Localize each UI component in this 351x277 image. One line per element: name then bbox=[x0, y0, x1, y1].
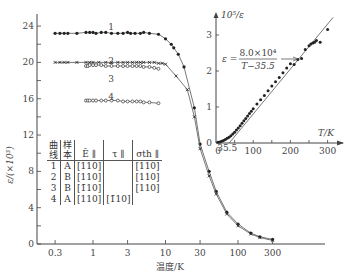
data-point bbox=[100, 64, 103, 67]
fit-line bbox=[229, 17, 333, 143]
data-point bbox=[148, 65, 151, 68]
data-point bbox=[157, 33, 160, 36]
y-tick-label: 12 bbox=[23, 130, 34, 140]
y-tick-label: 0 bbox=[28, 239, 34, 249]
cell: 1 bbox=[47, 161, 61, 173]
curve-label-1: 1 bbox=[108, 22, 114, 32]
inset-data-point bbox=[278, 76, 281, 79]
data-point bbox=[75, 32, 78, 35]
inset-data-point bbox=[300, 57, 303, 60]
data-point bbox=[139, 32, 142, 35]
y-tick-label: 16 bbox=[23, 94, 35, 104]
fit-formula-lhs: ε = bbox=[222, 54, 237, 64]
inset-x-tick-label: 35.5 bbox=[217, 143, 237, 153]
inset-data-point bbox=[267, 89, 270, 92]
inset-data-point bbox=[270, 85, 273, 88]
data-point bbox=[58, 32, 61, 35]
cell: A bbox=[61, 194, 75, 205]
cell bbox=[104, 183, 133, 194]
inset-data-point bbox=[250, 110, 253, 113]
data-point bbox=[133, 32, 136, 35]
inset-data-point bbox=[285, 67, 288, 70]
table-header-sample: 样本 bbox=[61, 140, 75, 161]
inset-x-tick-label: 300 bbox=[319, 146, 336, 156]
y-tick-label: 8 bbox=[28, 166, 34, 176]
table-header-tau: τ ∥ bbox=[104, 140, 133, 161]
table-row: 2 B [110] [110] bbox=[47, 172, 162, 183]
data-point bbox=[91, 31, 94, 34]
inset-data-point bbox=[244, 117, 247, 120]
data-point bbox=[121, 32, 124, 35]
data-point bbox=[182, 65, 185, 68]
cell: B bbox=[61, 172, 75, 183]
data-point bbox=[177, 53, 180, 56]
data-point bbox=[88, 99, 91, 102]
fit-formula-numerator: 8.0×10⁴ bbox=[240, 48, 277, 58]
inset-y-tick-label: 1 bbox=[206, 102, 212, 112]
cell bbox=[133, 194, 162, 205]
inset-data-point bbox=[293, 63, 296, 66]
x-axis-label: 温度/K bbox=[156, 261, 184, 272]
data-point bbox=[135, 100, 138, 103]
data-point bbox=[148, 101, 151, 104]
inset-x-arrow-icon bbox=[337, 141, 344, 146]
inset-data-point bbox=[289, 62, 292, 65]
inset-y-tick-label: 3 bbox=[206, 30, 212, 40]
cell: [110] bbox=[133, 161, 162, 173]
data-point bbox=[95, 99, 98, 102]
data-point bbox=[131, 65, 134, 68]
inset-y-tick-label: 2 bbox=[206, 66, 212, 76]
data-point bbox=[66, 32, 69, 35]
x-tick-label: 0.3 bbox=[48, 248, 63, 258]
data-point bbox=[92, 99, 95, 102]
x-tick-label: 100 bbox=[229, 248, 246, 258]
inset-data-point bbox=[319, 41, 322, 44]
data-point bbox=[131, 100, 134, 103]
inset-data-point bbox=[246, 115, 249, 118]
data-point bbox=[193, 106, 196, 109]
data-point bbox=[170, 43, 173, 46]
inset-data-point bbox=[252, 107, 255, 110]
data-point bbox=[104, 99, 107, 102]
y-tick-label: 4 bbox=[28, 203, 34, 213]
data-point bbox=[92, 64, 95, 67]
data-point bbox=[100, 99, 103, 102]
data-point bbox=[126, 31, 129, 34]
table-header-curve: 曲线 bbox=[47, 140, 61, 161]
data-point bbox=[157, 102, 160, 105]
y-axis-label: ε/(×10³) bbox=[5, 146, 15, 184]
inset-x-tick-label: 200 bbox=[282, 146, 299, 156]
inset-y-arrow-icon bbox=[214, 12, 219, 18]
inset-data-point bbox=[255, 103, 258, 106]
data-point bbox=[104, 65, 107, 68]
inset-data-point bbox=[259, 98, 262, 101]
inset-data-point bbox=[281, 71, 284, 74]
cell: B bbox=[61, 183, 75, 194]
data-point bbox=[100, 31, 103, 34]
x-tick-label: 10 bbox=[160, 248, 172, 258]
data-point bbox=[94, 32, 97, 35]
cell: 3 bbox=[47, 183, 61, 194]
data-point bbox=[88, 64, 91, 67]
data-point bbox=[142, 31, 145, 34]
x-tick-label: 300 bbox=[264, 248, 281, 258]
inset-x-axis-label: T/K bbox=[318, 128, 335, 138]
data-point bbox=[122, 65, 125, 68]
inset-data-point bbox=[263, 94, 266, 97]
inset-data-point bbox=[241, 122, 244, 125]
fit-formula-denominator: T−35.5 bbox=[241, 61, 275, 71]
data-point bbox=[129, 32, 132, 35]
x-tick-label: 1 bbox=[90, 248, 96, 258]
cell: A bbox=[61, 161, 75, 173]
data-point bbox=[139, 100, 142, 103]
inset-x-tick-label: 100 bbox=[245, 146, 262, 156]
cell: [1̄10] bbox=[104, 194, 133, 205]
cell bbox=[104, 172, 133, 183]
table-row: 1 A [110] [110] bbox=[47, 161, 162, 173]
table-row: 3 B [1̄10] [110] bbox=[47, 183, 162, 194]
inset-data-point bbox=[304, 48, 307, 51]
data-point bbox=[95, 64, 98, 67]
curve-label-2: 2 bbox=[108, 56, 114, 66]
data-point bbox=[142, 101, 145, 104]
cell: 4 bbox=[47, 194, 61, 205]
